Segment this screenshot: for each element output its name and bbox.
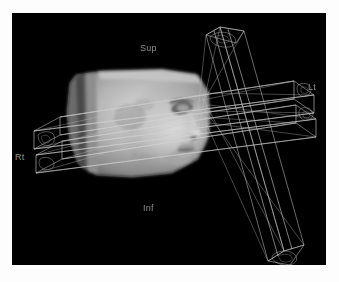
3d-localizer-viewport[interactable]: Sup Inf Rt Lt	[12, 13, 326, 265]
scene-canvas[interactable]	[12, 13, 326, 265]
page-frame: Sup Inf Rt Lt	[0, 0, 339, 282]
oblique-slab-diagonal	[206, 27, 304, 265]
